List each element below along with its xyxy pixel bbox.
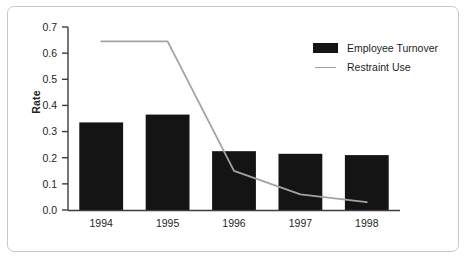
- bar-1995: [146, 115, 190, 210]
- bar-1994: [79, 122, 123, 210]
- legend-label: Employee Turnover: [347, 42, 438, 54]
- y-tick-label: 0.3: [42, 125, 57, 137]
- legend-label: Restraint Use: [347, 61, 411, 73]
- x-tick-label-1998: 1998: [355, 217, 379, 229]
- x-tick-label-1996: 1996: [222, 217, 246, 229]
- x-tick-label-1994: 1994: [90, 217, 114, 229]
- y-tick-label: 0.2: [42, 152, 57, 164]
- bar-1996: [212, 151, 256, 210]
- y-tick-label: 0.7: [42, 21, 57, 33]
- legend-item-employee-turnover: Employee Turnover: [313, 38, 461, 57]
- y-tick-label: 0.6: [42, 47, 57, 59]
- x-tick-label-1995: 1995: [156, 217, 180, 229]
- legend-line-swatch-icon: [313, 62, 338, 72]
- bar-1997: [278, 154, 322, 210]
- legend-bar-swatch-icon: [313, 43, 338, 53]
- y-axis-ticks: [62, 27, 68, 210]
- y-tick-label: 0.1: [42, 178, 57, 190]
- y-tick-label: 0.5: [42, 73, 57, 85]
- chart-legend: Employee Turnover Restraint Use: [313, 38, 461, 76]
- y-tick-label: 0.0: [42, 204, 57, 216]
- bar-series-employee-turnover: [79, 115, 388, 210]
- legend-item-restraint-use: Restraint Use: [313, 57, 461, 76]
- x-tick-label-1997: 1997: [289, 217, 313, 229]
- y-axis-tick-labels: 0.00.10.20.30.40.50.60.7: [42, 21, 57, 216]
- y-tick-label: 0.4: [42, 99, 57, 111]
- chart-figure: Rate 0.00.10.20.30.40.50.60.7 1994199519…: [0, 0, 467, 260]
- x-axis-tick-labels: 19941995199619971998: [90, 217, 379, 229]
